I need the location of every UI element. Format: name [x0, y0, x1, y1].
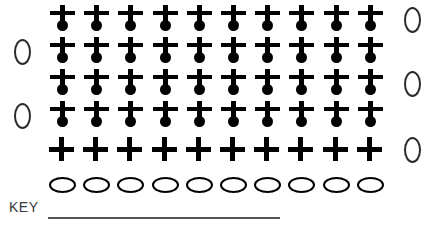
- plus-with-dot-icon: [286, 36, 316, 68]
- plus-icon: [47, 134, 77, 166]
- symbol-row: [0, 68, 432, 100]
- plus-icon: [184, 134, 214, 166]
- symbol-cell: [47, 4, 77, 36]
- glyph-horizontal-bar: [84, 11, 109, 15]
- plus-with-dot-icon: [150, 4, 180, 36]
- symbol-cell: [355, 100, 385, 132]
- plus-with-dot-icon: [321, 4, 351, 36]
- glyph-horizontal-bar: [84, 75, 109, 79]
- plus-icon: [115, 134, 145, 166]
- horizontal-ellipse-icon: [323, 177, 350, 193]
- symbol-cell: [184, 36, 214, 68]
- symbol-cell: [252, 134, 282, 166]
- symbol-cell: [184, 68, 214, 100]
- plus-with-dot-icon: [355, 68, 385, 100]
- plus-with-dot-icon: [47, 4, 77, 36]
- glyph-dot: [262, 84, 273, 95]
- horizontal-ellipse-icon: [83, 177, 110, 193]
- symbol-cell: [81, 4, 111, 36]
- symbol-cell: [218, 36, 248, 68]
- glyph-horizontal-bar: [289, 43, 314, 47]
- plus-with-dot-icon: [321, 68, 351, 100]
- glyph-dot: [228, 20, 239, 31]
- plus-with-dot-icon: [81, 68, 111, 100]
- plus-with-dot-icon: [252, 36, 282, 68]
- symbol-cell: [81, 134, 111, 166]
- symbol-cell: [218, 4, 248, 36]
- key-label: KEY: [9, 199, 39, 215]
- symbol-cell: [252, 4, 282, 36]
- plus-with-dot-icon: [321, 100, 351, 132]
- glyph-horizontal-bar: [84, 107, 109, 111]
- glyph-horizontal-bar: [118, 75, 143, 79]
- symbol-row: [0, 4, 432, 36]
- glyph-horizontal-bar: [221, 11, 246, 15]
- key-answer-blank[interactable]: [48, 217, 280, 219]
- glyph-dot: [365, 20, 376, 31]
- plus-with-dot-icon: [218, 4, 248, 36]
- glyph-horizontal-bar: [153, 75, 178, 79]
- symbol-cell: [252, 68, 282, 100]
- horizontal-ellipse-icon: [254, 177, 281, 193]
- glyph-dot: [125, 20, 136, 31]
- glyph-dot: [228, 84, 239, 95]
- vertical-oval-icon: [404, 7, 421, 33]
- right-oval-marker: [400, 134, 426, 166]
- symbol-cell: [321, 100, 351, 132]
- glyph-horizontal-bar: [357, 147, 382, 152]
- glyph-dot: [262, 20, 273, 31]
- glyph-horizontal-bar: [50, 75, 75, 79]
- glyph-horizontal-bar: [187, 43, 212, 47]
- horizontal-ellipse-icon: [152, 177, 179, 193]
- glyph-horizontal-bar: [187, 75, 212, 79]
- horizontal-ellipse-icon: [220, 177, 247, 193]
- plus-with-dot-icon: [47, 36, 77, 68]
- glyph-horizontal-bar: [49, 147, 74, 152]
- symbol-cell: [286, 68, 316, 100]
- glyph-horizontal-bar: [254, 147, 279, 152]
- plus-icon: [150, 134, 180, 166]
- symbol-row: [0, 134, 432, 166]
- glyph-horizontal-bar: [186, 147, 211, 152]
- plus-with-dot-icon: [115, 100, 145, 132]
- vertical-oval-icon: [404, 71, 421, 97]
- symbol-cell: [81, 68, 111, 100]
- plus-with-dot-icon: [252, 4, 282, 36]
- plus-with-dot-icon: [218, 36, 248, 68]
- glyph-dot: [331, 20, 342, 31]
- symbol-cell: [81, 100, 111, 132]
- symbol-cell: [150, 134, 180, 166]
- glyph-dot: [57, 52, 68, 63]
- plus-with-dot-icon: [321, 36, 351, 68]
- glyph-horizontal-bar: [255, 11, 280, 15]
- symbol-cell: [355, 4, 385, 36]
- symbol-row: [0, 100, 432, 132]
- glyph-horizontal-bar: [255, 107, 280, 111]
- plus-with-dot-icon: [218, 100, 248, 132]
- plus-with-dot-icon: [115, 68, 145, 100]
- glyph-dot: [194, 116, 205, 127]
- glyph-horizontal-bar: [50, 107, 75, 111]
- symbol-cell: [218, 134, 248, 166]
- plus-with-dot-icon: [81, 36, 111, 68]
- glyph-dot: [262, 116, 273, 127]
- glyph-dot: [296, 52, 307, 63]
- glyph-horizontal-bar: [50, 43, 75, 47]
- plus-with-dot-icon: [184, 36, 214, 68]
- glyph-horizontal-bar: [255, 43, 280, 47]
- symbol-cell: [47, 36, 77, 68]
- glyph-dot: [160, 84, 171, 95]
- horizontal-ellipse-icon: [288, 177, 315, 193]
- plus-with-dot-icon: [115, 36, 145, 68]
- symbol-cell: [184, 4, 214, 36]
- glyph-horizontal-bar: [153, 11, 178, 15]
- glyph-dot: [91, 20, 102, 31]
- worksheet-canvas: KEY: [0, 0, 432, 230]
- glyph-dot: [57, 116, 68, 127]
- plus-with-dot-icon: [81, 4, 111, 36]
- symbol-cell: [115, 36, 145, 68]
- glyph-horizontal-bar: [324, 43, 349, 47]
- glyph-horizontal-bar: [289, 11, 314, 15]
- glyph-horizontal-bar: [289, 107, 314, 111]
- symbol-cell: [286, 134, 316, 166]
